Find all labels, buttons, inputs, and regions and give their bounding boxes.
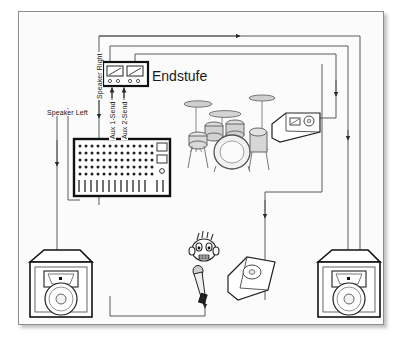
diagram-canvas: Speaker Right Speaker Left Aux 1-Send Au… (0, 0, 400, 341)
label-aux1-send: Aux 1-Send (109, 100, 116, 140)
label-endstufe: Endstufe (152, 69, 207, 83)
speaker-right-device[interactable] (0, 0, 400, 341)
label-speaker-left: Speaker Left (46, 109, 89, 116)
label-speaker-right: Speaker Right (96, 52, 103, 100)
label-aux2-send: Aux 2-Send (121, 100, 128, 140)
